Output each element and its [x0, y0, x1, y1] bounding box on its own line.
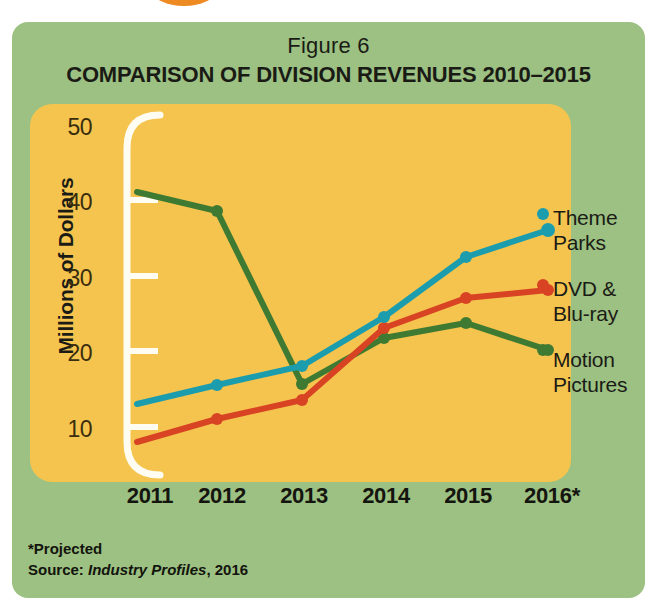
footnote: *Projected Source: Industry Profiles, 20…: [28, 538, 428, 580]
series-line-dvd-bluray: [137, 290, 548, 442]
y-tick-marks: [128, 200, 158, 427]
decorative-orange-circle-icon: [152, 0, 216, 6]
legend-swatch-dvd-bluray: [537, 279, 549, 291]
series-line-theme-parks: [137, 230, 548, 404]
footnote-source-prefix: Source:: [28, 561, 88, 578]
series-line-motion-pictures: [137, 192, 548, 384]
legend-swatch-motion-pictures: [537, 344, 549, 356]
figure-root: Figure 6 COMPARISON OF DIVISION REVENUES…: [0, 0, 657, 609]
chart-lines: [12, 22, 645, 598]
footnote-source-title: Industry Profiles: [88, 561, 206, 578]
legend-swatch-theme-parks: [537, 208, 549, 220]
footnote-source: Source: Industry Profiles, 2016: [28, 559, 428, 580]
footnote-projected: *Projected: [28, 538, 428, 559]
axis-line: [127, 115, 160, 475]
footnote-source-suffix: , 2016: [206, 561, 248, 578]
figure-card: Figure 6 COMPARISON OF DIVISION REVENUES…: [12, 22, 645, 598]
